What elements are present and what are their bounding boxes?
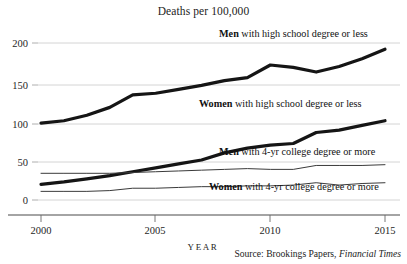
series-label-women-high-school: Women with high school degree or less [199,99,361,109]
xtick-label-2005: 2005 [145,225,166,236]
series-label-women-high-school-rest: with high school degree or less [232,98,361,109]
chart-figure: Deaths per 100,000 200 150 100 50 0 [0,0,407,264]
series-label-men-college: Men with 4-yr college degree or more [219,147,375,157]
chart-plot-area: 200 150 100 50 0 2000 2005 2010 2015 YEA… [0,0,407,264]
ytick-label-0: 0 [23,195,28,206]
xtick-label-2000: 2000 [31,225,52,236]
ytick-label-50: 50 [18,157,29,168]
series-line-men-high-school [41,49,385,123]
series-label-men-high-school: Men with high school degree or less [219,29,368,39]
series-label-women-college: Women with 4-yr college degree or more [209,182,379,192]
ytick-label-200: 200 [12,38,28,49]
series-label-women-high-school-bold: Women [199,98,232,109]
xtick-label-2010: 2010 [260,225,281,236]
source-prefix: Source: Brookings Papers, [234,248,338,259]
series-label-men-college-bold: Men [219,146,239,157]
series-label-women-college-rest: with 4-yr college degree or more [242,181,378,192]
series-line-men-college [41,165,385,174]
series-label-men-college-rest: with 4-yr college degree or more [239,146,375,157]
xtick-label-2015: 2015 [375,225,396,236]
source-note: Source: Brookings Papers, Financial Time… [234,248,401,259]
series-label-men-high-school-bold: Men [219,28,239,39]
x-axis-ticks [41,215,385,222]
ytick-label-100: 100 [12,119,28,130]
series-lines [41,49,385,191]
x-axis-title: YEAR [188,242,219,252]
source-publication: Financial Times [339,248,401,259]
series-label-women-college-bold: Women [209,181,242,192]
series-label-men-high-school-rest: with high school degree or less [239,28,368,39]
ytick-label-150: 150 [12,80,28,91]
y-axis-ticks [32,43,38,200]
